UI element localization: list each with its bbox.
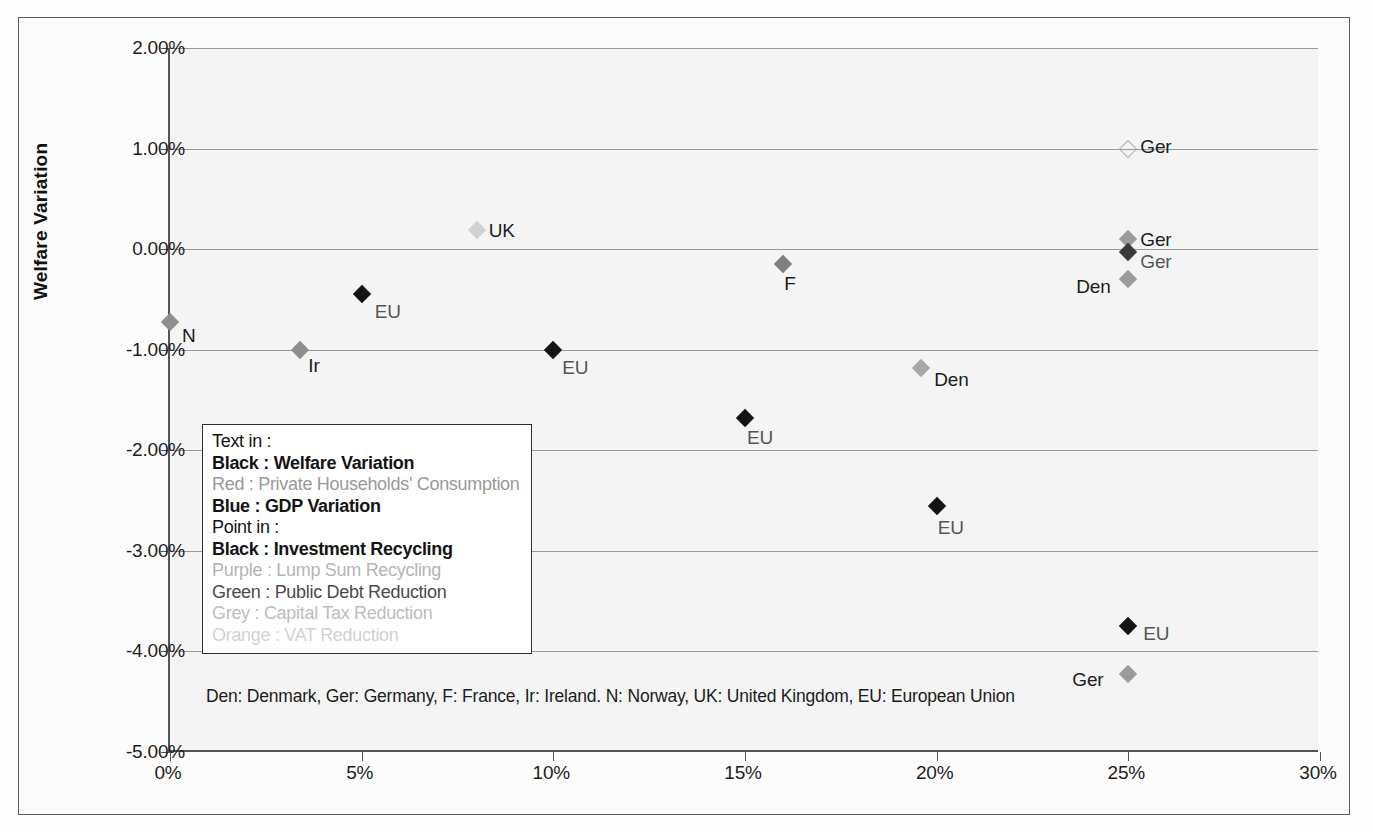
data-point-den[interactable] [1119,270,1137,288]
x-tick-label: 15% [698,762,788,784]
x-tick-mark [937,752,938,761]
data-point-uk[interactable] [467,221,485,239]
data-point-label: Ger [1072,669,1103,691]
y-axis-title: Welfare Variation [30,143,52,300]
data-point-ger[interactable] [1119,243,1137,261]
data-point-ger[interactable] [1119,139,1137,157]
x-tick-mark [1320,752,1321,761]
data-point-label: Ger [1140,251,1171,273]
legend-entry: Red : Private Households' Consumption [212,474,522,496]
x-tick-label: 5% [315,762,405,784]
legend-entry: Blue : GDP Variation [212,496,522,518]
data-point-eu[interactable] [927,496,945,514]
x-tick-mark [745,752,746,761]
y-tick-label: -3.00% [35,540,185,562]
y-tick-label: -4.00% [35,640,185,662]
x-tick-label: 0% [123,762,213,784]
x-tick-label: 10% [506,762,596,784]
data-point-label: Ir [308,355,319,377]
legend-entry: Purple : Lump Sum Recycling [212,560,522,582]
data-point-eu[interactable] [544,341,562,359]
legend-entry: Grey : Capital Tax Reduction [212,603,522,625]
legend-entry: Point in : [212,517,522,539]
y-tick-label: 0.00% [35,238,185,260]
data-point-label: F [784,273,795,295]
data-point-label: EU [747,427,773,449]
x-tick-label: 20% [890,762,980,784]
legend-entry: Black : Welfare Variation [212,453,522,475]
x-tick-mark [1128,752,1129,761]
data-point-label: Den [1076,276,1110,298]
data-point-label: Den [934,369,968,391]
x-tick-mark [553,752,554,761]
legend-entry: Green : Public Debt Reduction [212,582,522,604]
data-point-label: EU [375,301,401,323]
data-point-den[interactable] [912,359,930,377]
legend-entry: Black : Investment Recycling [212,539,522,561]
y-tick-label: 1.00% [35,138,185,160]
data-point-label: EU [1143,623,1169,645]
x-tick-label: 30% [1273,762,1363,784]
y-tick-label: -5.00% [35,741,185,763]
footnote-country-abbreviations: Den: Denmark, Ger: Germany, F: France, I… [206,686,1015,707]
data-point-ir[interactable] [291,341,309,359]
data-point-ger[interactable] [1119,664,1137,682]
data-point-label: Ger [1140,229,1171,251]
data-point-label: Ger [1140,136,1171,158]
y-tick-label: -2.00% [35,439,185,461]
legend: Text in :Black : Welfare VariationRed : … [202,424,532,654]
x-tick-mark [362,752,363,761]
gridline [170,48,1318,49]
data-point-label: EU [938,517,964,539]
chart-figure: Welfare Variation NIrEUUKEUEUFDenEUGerGe… [0,0,1373,832]
legend-entry: Text in : [212,431,522,453]
data-point-label: UK [489,220,515,242]
data-point-f[interactable] [774,255,792,273]
data-point-label: EU [562,357,588,379]
data-point-eu[interactable] [1119,617,1137,635]
y-tick-label: 2.00% [35,37,185,59]
legend-entry: Orange : VAT Reduction [212,625,522,647]
data-point-eu[interactable] [352,285,370,303]
gridline [170,350,1318,351]
data-point-eu[interactable] [736,409,754,427]
y-tick-label: -1.00% [35,339,185,361]
x-tick-label: 25% [1081,762,1171,784]
